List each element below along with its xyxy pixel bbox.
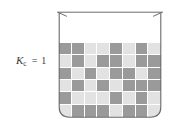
kc-value: 1 (41, 56, 46, 66)
beaker-outline-icon (57, 11, 163, 120)
kc-label: Kc = 1 (16, 55, 46, 66)
equals-sign: = (32, 56, 38, 66)
beaker-container (57, 11, 163, 120)
kc-variable: K (16, 55, 23, 66)
equilibrium-beaker-figure: Kc = 1 (0, 0, 172, 128)
kc-subscript: c (23, 60, 26, 68)
